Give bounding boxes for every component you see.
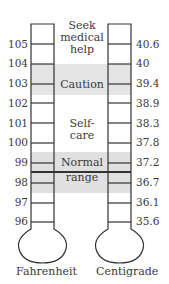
centigrade-tick: 39.4: [136, 78, 159, 89]
fahrenheit-caption: Fahrenheit: [16, 265, 77, 278]
centigrade-tick: 38.9: [136, 98, 159, 109]
centigrade-tick: 38.3: [136, 118, 159, 129]
centigrade-tick: 40.6: [136, 39, 159, 50]
centigrade-caption: Centigrade: [96, 265, 158, 278]
centigrade-tick: 36.7: [136, 177, 159, 188]
centigrade-tick: 35.6: [136, 216, 159, 227]
fahrenheit-tick: 99: [0, 157, 28, 168]
centigrade-tick: 40: [136, 58, 149, 69]
zone-normal-line2: range: [58, 172, 106, 184]
fahrenheit-tick: 104: [0, 58, 28, 69]
fahrenheit-tick: 97: [0, 197, 28, 208]
zone-normal-line1: Normal: [58, 157, 106, 172]
zone-label-normal-range: Normal range: [58, 157, 106, 184]
fahrenheit-tick: 105: [0, 39, 28, 50]
centigrade-tick: 36.1: [136, 197, 159, 208]
centigrade-tick: 37.2: [136, 157, 159, 168]
zone-label-self-care: Self-care: [58, 118, 106, 142]
fahrenheit-tick: 100: [0, 137, 28, 148]
zone-seek-line3: help: [58, 44, 106, 56]
fahrenheit-tick: 101: [0, 118, 28, 129]
fahrenheit-tick: 103: [0, 78, 28, 89]
centigrade-tick: 37.8: [136, 137, 159, 148]
zone-label-caution: Caution: [58, 79, 106, 91]
fahrenheit-tick: 98: [0, 177, 28, 188]
fahrenheit-tick: 96: [0, 216, 28, 227]
zone-label-seek-medical-help: Seek medical help: [58, 20, 106, 56]
fahrenheit-tick: 102: [0, 98, 28, 109]
